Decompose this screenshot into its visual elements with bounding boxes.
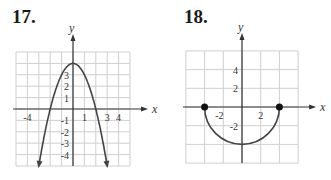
- x-tick-label: -2: [215, 110, 223, 121]
- x-axis-arrow-icon: [309, 105, 316, 110]
- endpoint-dot: [276, 104, 283, 111]
- graph-18: xy-2242-2: [0, 0, 331, 180]
- y-tick-label: 2: [233, 83, 238, 94]
- y-tick-label: 4: [233, 65, 238, 76]
- y-axis-arrow-icon: [240, 33, 245, 40]
- y-tick-label: -2: [230, 121, 238, 132]
- x-axis-label: x: [319, 100, 326, 114]
- y-axis-label: y: [237, 20, 244, 34]
- x-tick-label: 2: [258, 110, 263, 121]
- endpoint-dot: [201, 104, 208, 111]
